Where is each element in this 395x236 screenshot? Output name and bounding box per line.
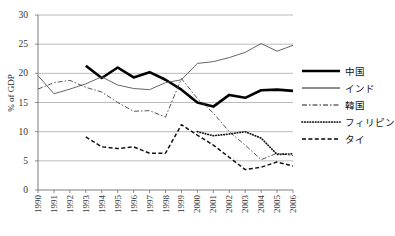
legend-item: タイ — [302, 130, 392, 147]
legend-label: インド — [345, 81, 375, 95]
legend-swatch — [302, 83, 340, 93]
series-line — [38, 44, 293, 94]
legend-swatch — [302, 134, 340, 144]
legend-item: インド — [302, 79, 392, 96]
series-line — [38, 79, 293, 160]
legend-item: 韓国 — [302, 96, 392, 113]
legend-swatch — [302, 117, 340, 127]
legend-swatch — [302, 100, 340, 110]
legend-label: 韓国 — [345, 98, 365, 112]
legend-label: 中国 — [345, 64, 365, 78]
legend-item: 中国 — [302, 62, 392, 79]
legend-item: フィリピン — [302, 113, 392, 130]
chart-legend: 中国インド韓国フィリピンタイ — [302, 62, 392, 147]
series-line — [197, 132, 293, 155]
legend-swatch — [302, 66, 340, 76]
legend-label: フィリピン — [345, 115, 395, 129]
legend-label: タイ — [345, 132, 365, 146]
